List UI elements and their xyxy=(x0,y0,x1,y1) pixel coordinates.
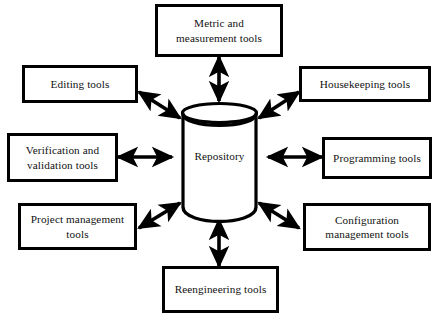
connector-group xyxy=(118,57,322,266)
connector-housekeeping xyxy=(259,92,299,118)
node-project-management-tools[interactable]: Project management tools xyxy=(18,203,137,250)
node-editing-tools[interactable]: Editing tools xyxy=(22,65,138,103)
connector-editing xyxy=(139,92,180,118)
node-label-editing: Editing tools xyxy=(47,77,114,91)
node-label-programming: Programming tools xyxy=(329,151,425,165)
repository-cylinder-icon xyxy=(183,104,257,222)
connector-project xyxy=(139,203,180,228)
node-metric-and-measurement-tools[interactable]: Metric and measurement tools xyxy=(155,4,283,57)
node-label-housekeeping: Housekeeping tools xyxy=(316,77,414,91)
node-programming-tools[interactable]: Programming tools xyxy=(322,137,432,179)
node-label-metric: Metric and measurement tools xyxy=(172,16,266,45)
node-label-verification: Verification and validation tools xyxy=(22,143,103,172)
node-label-reengineering: Reengineering tools xyxy=(171,282,271,296)
node-housekeeping-tools[interactable]: Housekeeping tools xyxy=(299,66,431,102)
node-reengineering-tools[interactable]: Reengineering tools xyxy=(162,266,279,313)
node-label-project: Project management tools xyxy=(27,212,128,241)
node-configuration-management-tools[interactable]: Configuration management tools xyxy=(303,203,431,251)
cylinder-bottom-arc xyxy=(183,207,256,222)
cases-repository-diagram: Repository Metric and measurement tools … xyxy=(0,0,435,321)
node-verification-and-validation-tools[interactable]: Verification and validation tools xyxy=(7,133,118,182)
connector-configuration xyxy=(259,203,299,228)
node-label-configuration: Configuration management tools xyxy=(321,213,412,242)
